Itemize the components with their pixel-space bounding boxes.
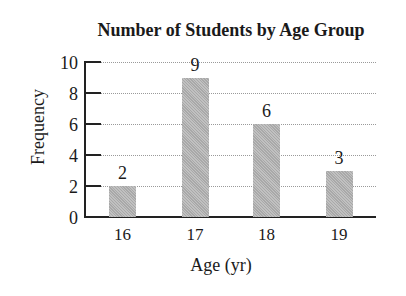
bar-18 [253, 124, 280, 217]
bar-value-label: 9 [191, 56, 200, 74]
y-tick-label: 10 [60, 54, 78, 72]
y-tick-label: 4 [69, 147, 78, 165]
gridline [101, 62, 376, 63]
y-tick [85, 154, 101, 156]
bar-17 [182, 78, 209, 218]
y-axis-line [84, 61, 86, 218]
x-tick-label: 18 [258, 226, 275, 243]
y-tick [85, 123, 101, 125]
plot-area: 0246810216917618319 [0, 0, 406, 296]
bar-value-label: 6 [262, 102, 271, 120]
y-tick [85, 92, 101, 94]
bar-value-label: 3 [335, 149, 344, 167]
x-tick-label: 19 [331, 226, 348, 243]
y-tick [85, 61, 101, 63]
y-tick-label: 6 [69, 116, 78, 134]
x-tick-label: 16 [114, 226, 131, 243]
gridline [101, 124, 376, 125]
y-tick-label: 0 [69, 209, 78, 227]
bar-19 [326, 171, 353, 218]
y-tick [85, 185, 101, 187]
y-tick-label: 2 [69, 178, 78, 196]
x-tick-label: 17 [187, 226, 204, 243]
y-tick-label: 8 [69, 85, 78, 103]
gridline [101, 93, 376, 94]
bar-value-label: 2 [118, 164, 127, 182]
bar-16 [109, 186, 136, 217]
